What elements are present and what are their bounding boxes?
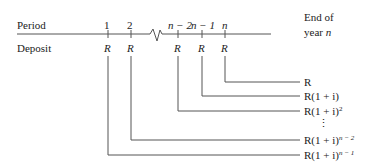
timeline-axis [17,29,271,41]
period-label-1: 1 [104,19,110,31]
deposit-n: R [221,42,228,54]
flow-line-2 [131,56,300,140]
end-of-label: End of [304,11,334,23]
year-n-label: year n [304,26,331,38]
period-row-label: Period [17,19,46,31]
period-label-n-1: n − 1 [191,19,215,31]
deposit-1: R [104,42,111,54]
flow-line-n-1 [202,56,300,96]
fv-r-1-i-2: R(1 + i)2 [304,105,342,117]
fv-r-1-i: R(1 + i) [304,90,339,102]
deposit-2: R [127,42,134,54]
deposit-row-label: Deposit [17,42,51,54]
period-label-2: 2 [127,19,133,31]
vertical-ellipsis: ⋮ [318,117,329,129]
flow-line-n [225,56,300,82]
fv-r-1-i-n-1: R(1 + i)n − 1 [304,149,354,161]
fv-r: R [304,76,311,88]
deposit-n-1: R [198,42,205,54]
deposit-n-2: R [174,42,181,54]
period-label-n: n [222,19,228,31]
flow-line-n-2 [178,56,300,111]
fv-r-1-i-n-2: R(1 + i)n − 2 [304,134,354,146]
period-label-n-2: n − 2 [168,19,192,31]
